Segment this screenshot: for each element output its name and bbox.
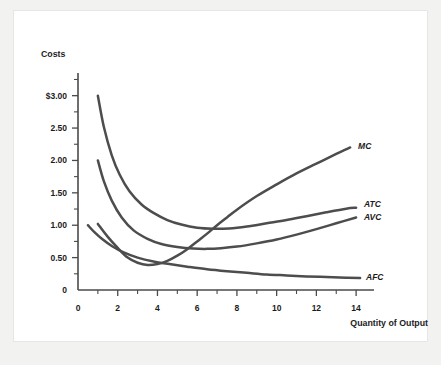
y-tick-label: 1.00 bbox=[50, 220, 67, 230]
tick-labels-group: 00.501.001.502.002.50$3.0002468101214 bbox=[46, 91, 361, 313]
x-tick-label: 8 bbox=[235, 303, 240, 313]
y-tick-label: 1.50 bbox=[50, 188, 67, 198]
y-tick-label: $3.00 bbox=[46, 91, 68, 101]
curve-label-afc: AFC bbox=[365, 272, 384, 282]
x-tick-label: 0 bbox=[76, 303, 81, 313]
curve-avc bbox=[98, 160, 356, 248]
y-tick-label: 0.50 bbox=[50, 253, 67, 263]
cost-curves-figure: 00.501.001.502.002.50$3.0002468101214 MC… bbox=[0, 0, 441, 365]
ticks-group bbox=[72, 79, 356, 296]
y-tick-label: 0 bbox=[62, 285, 67, 295]
y-tick-label: 2.50 bbox=[50, 123, 67, 133]
y-tick-label: 2.00 bbox=[50, 155, 67, 165]
curve-label-mc: MC bbox=[358, 141, 372, 151]
curve-label-atc: ATC bbox=[363, 199, 382, 209]
x-tick-label: 4 bbox=[155, 303, 160, 313]
x-tick-label: 2 bbox=[115, 303, 120, 313]
curve-labels-group: MCATCAVCAFC bbox=[358, 141, 384, 282]
cost-curves-chart: 00.501.001.502.002.50$3.0002468101214 MC… bbox=[0, 0, 441, 365]
y-axis-title: Costs bbox=[41, 49, 66, 59]
x-tick-label: 14 bbox=[351, 303, 361, 313]
curve-label-avc: AVC bbox=[363, 212, 382, 222]
x-tick-label: 6 bbox=[195, 303, 200, 313]
x-axis-title: Quantity of Output bbox=[350, 318, 428, 328]
x-tick-label: 12 bbox=[312, 303, 322, 313]
x-tick-label: 10 bbox=[272, 303, 282, 313]
curve-afc bbox=[88, 225, 360, 278]
curves-group bbox=[88, 96, 360, 278]
